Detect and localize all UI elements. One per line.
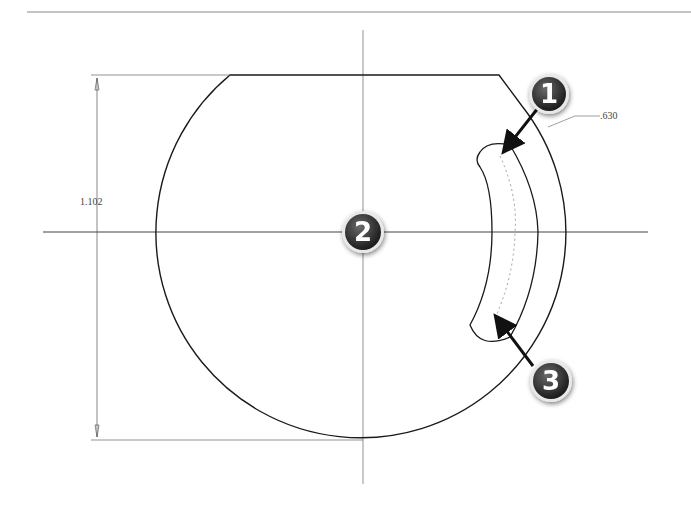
- slot-centerline[interactable]: [496, 156, 515, 316]
- part-profile[interactable]: [156, 75, 566, 438]
- sketch-canvas: 1.102 .630 1 2 3: [0, 0, 691, 514]
- callout-1-arrow: [505, 108, 538, 150]
- callout-badge-3[interactable]: 3: [530, 360, 572, 402]
- radius-leader-line: [548, 116, 575, 127]
- callout-badge-1[interactable]: 1: [529, 74, 569, 114]
- callout-2-number: 2: [354, 217, 372, 247]
- callout-3-arrow: [497, 318, 533, 366]
- radius-dimension-label[interactable]: .630: [600, 110, 618, 121]
- callout-3-number: 3: [542, 366, 560, 396]
- callout-1-number: 1: [540, 79, 558, 109]
- callout-badge-2[interactable]: 2: [342, 211, 384, 253]
- height-dimension-label[interactable]: 1.102: [80, 196, 103, 207]
- slot-profile[interactable]: [470, 144, 538, 342]
